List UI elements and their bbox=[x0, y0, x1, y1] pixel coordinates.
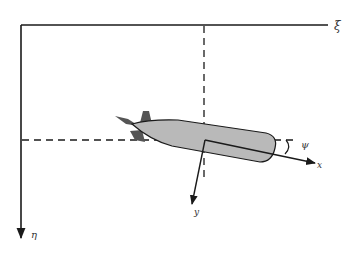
vehicle-hull bbox=[132, 120, 276, 162]
xi-label: ξ bbox=[334, 19, 342, 33]
vehicle-kinematics-diagram: ξ η x y ψ bbox=[0, 0, 352, 256]
body-y-label: y bbox=[193, 207, 200, 217]
eta-label: η bbox=[31, 229, 37, 240]
heading-angle-arc bbox=[285, 140, 289, 154]
psi-label: ψ bbox=[301, 139, 309, 150]
body-x-label: x bbox=[317, 160, 322, 170]
underwater-vehicle bbox=[115, 111, 276, 162]
